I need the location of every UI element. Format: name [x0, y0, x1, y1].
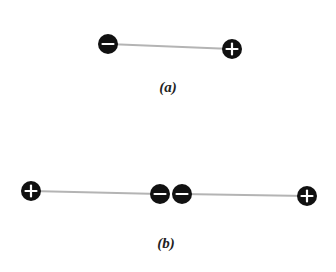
positive-charge-icon	[297, 186, 317, 206]
dipole-diagram	[0, 0, 336, 272]
negative-charge-icon	[98, 34, 118, 54]
bond-line	[108, 44, 232, 49]
bond-line	[31, 191, 160, 194]
positive-charge-icon	[21, 181, 41, 201]
panel-b	[21, 181, 317, 206]
panel-a	[98, 34, 242, 59]
panel-a-label: (a)	[159, 79, 177, 96]
panel-b-label: (b)	[157, 235, 175, 252]
bond-line	[182, 194, 307, 196]
negative-charge-icon	[172, 184, 192, 204]
positive-charge-icon	[222, 39, 242, 59]
negative-charge-icon	[150, 184, 170, 204]
